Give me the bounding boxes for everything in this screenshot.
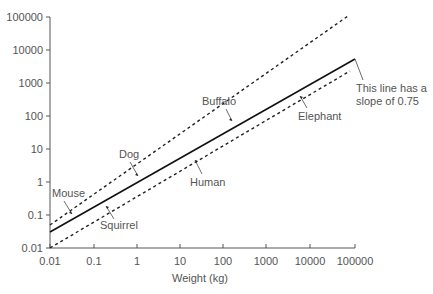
svg-text:Dog: Dog [119, 148, 139, 160]
y-tick-label: 1000 [19, 77, 43, 89]
y-tick-label: 0.01 [22, 242, 43, 254]
annotation-dog: Dog [119, 148, 139, 176]
svg-text:Elephant: Elephant [298, 110, 341, 122]
log-log-chart: 100000 10000 1000 100 10 1 0.1 0.01 0.01… [0, 0, 433, 294]
annotation-elephant: Elephant [298, 96, 341, 122]
x-ticks [50, 244, 355, 248]
annotation-slope: This line has a slope of 0.75 [355, 59, 428, 107]
x-tick-label: 10 [174, 255, 186, 267]
x-tick-label: 1000 [254, 255, 278, 267]
x-axis-title: Weight (kg) [172, 272, 228, 284]
lower-dashed-line [50, 71, 350, 248]
y-tick-label: 0.1 [28, 209, 43, 221]
annotation-squirrel: Squirrel [100, 206, 138, 231]
x-tick-label: 0.01 [39, 255, 60, 267]
x-tick-label: 0.1 [86, 255, 101, 267]
solid-regression-line [50, 59, 355, 232]
svg-text:slope of 0.75: slope of 0.75 [356, 95, 419, 107]
x-tick-label: 10000 [295, 255, 326, 267]
svg-text:Squirrel: Squirrel [100, 219, 138, 231]
x-tick-label: 100000 [337, 255, 374, 267]
svg-text:Buffalo: Buffalo [202, 95, 236, 107]
y-tick-label: 100 [25, 110, 43, 122]
annotation-buffalo: Buffalo [202, 95, 236, 121]
y-ticks [46, 17, 50, 248]
y-tick-label: 1 [37, 176, 43, 188]
svg-text:Mouse: Mouse [52, 187, 85, 199]
svg-text:This line has a: This line has a [356, 82, 428, 94]
annotation-human: Human [190, 160, 225, 188]
y-tick-label: 100000 [6, 11, 43, 23]
y-tick-label: 10000 [12, 44, 43, 56]
annotation-mouse: Mouse [52, 187, 85, 214]
x-tick-label: 100 [214, 255, 232, 267]
y-tick-label: 10 [31, 143, 43, 155]
x-tick-label: 1 [134, 255, 140, 267]
y-tick-labels: 100000 10000 1000 100 10 1 0.1 0.01 [6, 11, 43, 254]
x-tick-labels: 0.01 0.1 1 10 100 1000 10000 100000 [39, 255, 373, 267]
svg-text:Human: Human [190, 176, 225, 188]
